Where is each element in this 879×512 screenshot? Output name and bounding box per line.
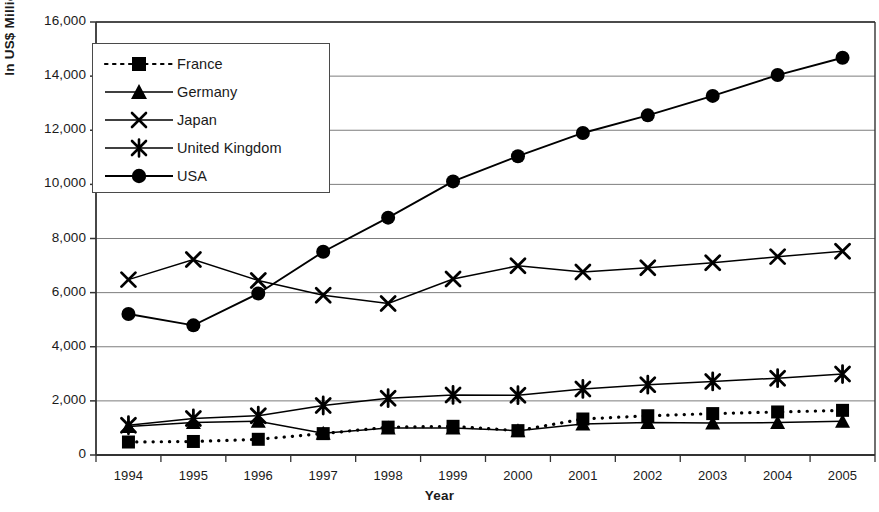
data-point (186, 318, 200, 332)
legend-label-usa: USA (175, 168, 207, 184)
legend-swatch-japan (103, 108, 175, 132)
legend-item-united-kingdom: United Kingdom (93, 134, 329, 162)
series-line (128, 421, 842, 433)
legend-label-united-kingdom: United Kingdom (175, 140, 282, 156)
legend-swatch-united-kingdom (103, 136, 175, 160)
series-japan (121, 244, 849, 310)
y-tick-label: 10,000 (10, 175, 86, 190)
y-tick-label: 16,000 (10, 13, 86, 28)
data-point (122, 436, 135, 449)
data-point (251, 273, 265, 287)
data-point (836, 51, 850, 65)
legend-item-usa: USA (93, 162, 329, 190)
data-point (706, 89, 720, 103)
legend-item-germany: Germany (93, 78, 329, 106)
data-point (316, 245, 330, 259)
legend-label-germany: Germany (175, 84, 237, 100)
legend-item-japan: Japan (93, 106, 329, 134)
legend-swatch-usa (103, 164, 175, 188)
data-point (186, 253, 200, 267)
legend-swatch-france (103, 52, 175, 76)
y-tick-label: 0 (10, 446, 86, 461)
data-point (121, 273, 135, 287)
y-tick-label: 2,000 (10, 392, 86, 407)
data-point (446, 272, 460, 286)
x-axis-title: Year (0, 488, 879, 503)
data-point (252, 433, 265, 446)
data-point (251, 286, 265, 300)
data-point (771, 68, 785, 82)
y-tick-label: 14,000 (10, 67, 86, 82)
x-tick-label: 2005 (803, 468, 879, 483)
series-line (128, 410, 842, 442)
legend-label-japan: Japan (175, 112, 217, 128)
data-point (641, 108, 655, 122)
series-line (128, 374, 842, 425)
data-point (121, 307, 135, 321)
data-point (381, 211, 395, 225)
legend-label-france: France (175, 56, 223, 72)
y-tick-label: 12,000 (10, 121, 86, 136)
data-point (511, 149, 525, 163)
legend-item-france: France (93, 50, 329, 78)
y-tick-label: 6,000 (10, 284, 86, 299)
data-point (187, 435, 200, 448)
chart-legend: France Germany Japan (92, 43, 330, 193)
data-point (446, 174, 460, 188)
series-france (122, 404, 849, 449)
y-tick-label: 8,000 (10, 230, 86, 245)
series-line (128, 251, 842, 303)
line-chart: In US$ Million France Germany (0, 0, 879, 512)
y-tick-label: 4,000 (10, 338, 86, 353)
legend-swatch-germany (103, 80, 175, 104)
data-point (576, 126, 590, 140)
